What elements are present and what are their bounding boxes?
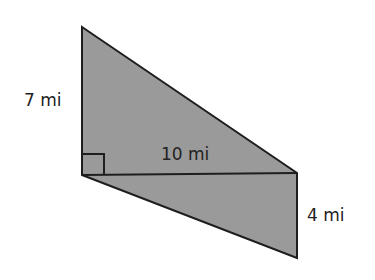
composite-figure — [0, 0, 375, 280]
left-side-label: 7 mi — [24, 92, 62, 109]
right-side-label: 4 mi — [307, 207, 345, 224]
base-label: 10 mi — [161, 146, 209, 163]
figure-fill — [82, 27, 297, 258]
